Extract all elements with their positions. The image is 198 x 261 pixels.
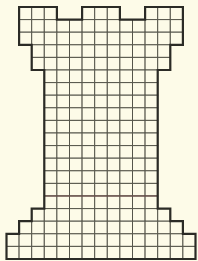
grid-cell [57, 183, 70, 196]
grid-cell [57, 57, 70, 70]
grid-cell [32, 7, 45, 20]
grid-cell [57, 209, 70, 222]
grid-cell [82, 183, 95, 196]
grid-cell [158, 57, 171, 70]
grid-cell [32, 234, 45, 247]
grid-cell [145, 83, 158, 96]
grid-cell [82, 158, 95, 171]
grid-cell [70, 57, 83, 70]
grid-cell [95, 221, 108, 234]
grid-cell [82, 32, 95, 45]
grid-cell [57, 120, 70, 133]
grid-cell [57, 45, 70, 58]
grid-cell [158, 246, 171, 259]
grid-cell [44, 146, 57, 159]
grid-cell [120, 108, 133, 121]
grid-cell [158, 45, 171, 58]
grid-cell [7, 246, 20, 259]
grid-cell [70, 209, 83, 222]
grid-cell [107, 146, 120, 159]
grid-cell [44, 95, 57, 108]
grid-cell [170, 7, 183, 20]
grid-cell [133, 158, 146, 171]
grid-cell [57, 32, 70, 45]
grid-cell [120, 83, 133, 96]
grid-cell [44, 234, 57, 247]
grid-cell [145, 108, 158, 121]
grid-cell [120, 158, 133, 171]
grid-cell [183, 246, 196, 259]
grid-cell [158, 32, 171, 45]
grid-cell [82, 20, 95, 33]
grid-cell [133, 95, 146, 108]
grid-cell [82, 133, 95, 146]
grid-cell [145, 158, 158, 171]
grid-cell [107, 209, 120, 222]
grid-cell [82, 7, 95, 20]
grid-cell [120, 246, 133, 259]
grid-cell [120, 32, 133, 45]
grid-cells [7, 7, 196, 259]
grid-cell [95, 120, 108, 133]
grid-cell [107, 108, 120, 121]
grid-cell [57, 83, 70, 96]
grid-cell [44, 32, 57, 45]
grid-cell [57, 70, 70, 83]
grid-cell [107, 133, 120, 146]
grid-cell [95, 171, 108, 184]
grid-cell [133, 196, 146, 209]
grid-cell [145, 95, 158, 108]
grid-cell [133, 32, 146, 45]
grid-cell [44, 209, 57, 222]
grid-cell [82, 45, 95, 58]
grid-cell [145, 209, 158, 222]
grid-cell [57, 108, 70, 121]
grid-cell [133, 209, 146, 222]
grid-cell [120, 120, 133, 133]
grid-cell [120, 234, 133, 247]
grid-cell [120, 57, 133, 70]
grid-cell [107, 221, 120, 234]
grid-cell [70, 183, 83, 196]
grid-cell [170, 32, 183, 45]
grid-cell [70, 70, 83, 83]
grid-cell [82, 209, 95, 222]
grid-cell [32, 57, 45, 70]
grid-cell [57, 158, 70, 171]
grid-cell [107, 246, 120, 259]
grid-cell [133, 57, 146, 70]
grid-cell [82, 83, 95, 96]
grid-cell [133, 234, 146, 247]
grid-cell [107, 32, 120, 45]
grid-cell [19, 246, 32, 259]
grid-cell [19, 20, 32, 33]
grid-cell [145, 57, 158, 70]
grid-cell [120, 45, 133, 58]
grid-cell [158, 209, 171, 222]
grid-cell [145, 7, 158, 20]
grid-cell [107, 7, 120, 20]
grid-cell [70, 234, 83, 247]
grid-cell [107, 70, 120, 83]
grid-cell [95, 183, 108, 196]
grid-cell [32, 32, 45, 45]
grid-cell [170, 246, 183, 259]
grid-cell [70, 221, 83, 234]
grid-cell [133, 146, 146, 159]
grid-cell [82, 120, 95, 133]
grid-cell [107, 45, 120, 58]
grid-cell [70, 20, 83, 33]
grid-cell [107, 158, 120, 171]
grid-cell [145, 120, 158, 133]
grid-cell [120, 209, 133, 222]
grid-cell [70, 45, 83, 58]
grid-cell [82, 171, 95, 184]
grid-cell [57, 196, 70, 209]
grid-cell [82, 95, 95, 108]
grid-cell [158, 20, 171, 33]
grid-cell [107, 234, 120, 247]
grid-cell [57, 133, 70, 146]
grid-cell [107, 120, 120, 133]
grid-cell [107, 83, 120, 96]
grid-cell [95, 20, 108, 33]
